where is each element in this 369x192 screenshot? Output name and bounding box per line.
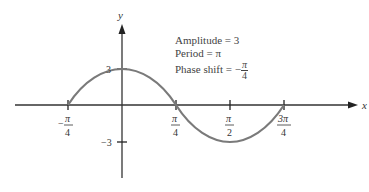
x-tick-label-neg-pi-4: − π 4 (58, 113, 73, 138)
x-tick-label-pi-2: π 2 (225, 113, 234, 138)
svg-text:4: 4 (281, 127, 286, 138)
phase-shift-text: Phase shift = −π4 (175, 60, 248, 81)
svg-text:2: 2 (227, 127, 232, 138)
x-tick-label-pi-4: π 4 (171, 113, 180, 138)
x-axis-arrow-icon (348, 102, 358, 109)
svg-text:π: π (65, 113, 71, 124)
y-tick-label-3: 3 (106, 64, 111, 75)
x-axis-label: x (361, 99, 367, 111)
svg-text:4: 4 (173, 127, 178, 138)
x-tick-label-3pi-4: 3π 4 (277, 113, 291, 138)
svg-text:3π: 3π (277, 113, 289, 124)
svg-text:π: π (226, 113, 232, 124)
y-tick-label-neg3: −3 (101, 137, 112, 148)
y-axis-label: y (117, 9, 123, 21)
graph: x y 3 −3 − π 4 π 4 π 2 3π 4 (0, 0, 369, 192)
period-text: Period = π (175, 47, 248, 60)
svg-text:π: π (172, 113, 178, 124)
amplitude-text: Amplitude = 3 (175, 34, 248, 47)
svg-text:−: − (58, 118, 64, 129)
phase-shift-fraction: π4 (241, 60, 248, 81)
y-axis-arrow-icon (119, 24, 126, 34)
svg-text:4: 4 (65, 127, 70, 138)
info-box: Amplitude = 3 Period = π Phase shift = −… (175, 34, 248, 81)
